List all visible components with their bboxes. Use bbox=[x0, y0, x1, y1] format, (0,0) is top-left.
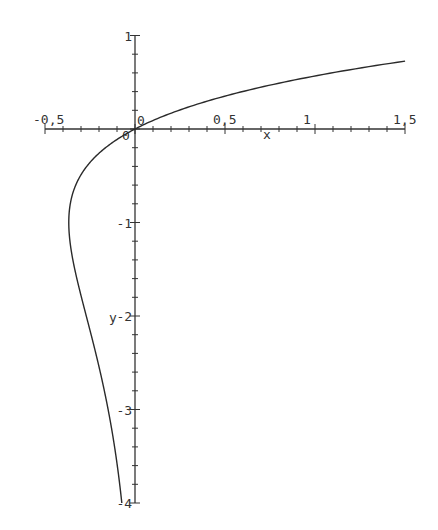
x-tick-label: 1,5 bbox=[393, 112, 416, 127]
y-tick-label: -3 bbox=[116, 403, 132, 418]
plot-canvas: -0,500,511,510-1-2-3-4 x y bbox=[0, 0, 438, 530]
axes: -0,500,511,510-1-2-3-4 bbox=[33, 29, 416, 512]
y-tick-label: -1 bbox=[116, 216, 132, 231]
x-tick-label: -0,5 bbox=[33, 112, 64, 127]
x-tick-label: 0,5 bbox=[213, 112, 236, 127]
y-tick-label: -4 bbox=[116, 496, 132, 511]
curve-line bbox=[69, 61, 405, 503]
y-axis-label: y bbox=[109, 310, 117, 325]
x-tick-label: 1 bbox=[303, 112, 311, 127]
y-tick-label: 1 bbox=[124, 29, 132, 44]
x-axis-label: x bbox=[263, 127, 271, 142]
y-tick-label: -2 bbox=[116, 309, 132, 324]
